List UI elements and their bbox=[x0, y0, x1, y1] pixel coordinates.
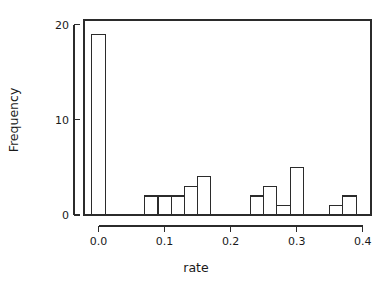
y-tick-label: 10 bbox=[55, 114, 69, 127]
histogram-bar bbox=[92, 34, 105, 215]
y-tick-label: 20 bbox=[55, 19, 69, 32]
histogram-bar bbox=[184, 186, 197, 215]
histogram-bar bbox=[158, 196, 171, 215]
histogram-bar bbox=[343, 196, 356, 215]
y-tick-label: 0 bbox=[62, 209, 69, 222]
histogram-bar bbox=[290, 167, 303, 215]
histogram-figure: 010200.00.10.20.30.4 rate Frequency bbox=[0, 0, 385, 288]
x-tick-label: 0.1 bbox=[156, 235, 174, 248]
x-axis-title: rate bbox=[183, 260, 209, 275]
histogram-bar bbox=[198, 177, 211, 215]
x-tick-label: 0.0 bbox=[90, 235, 108, 248]
histogram-bar bbox=[171, 196, 184, 215]
y-axis-title: Frequency bbox=[6, 87, 21, 152]
axes-group bbox=[74, 20, 371, 232]
bars-group bbox=[92, 34, 356, 215]
histogram-bar bbox=[250, 196, 263, 215]
histogram-bar bbox=[277, 205, 290, 215]
plot-panel-border bbox=[84, 20, 371, 215]
histogram-bar bbox=[330, 205, 343, 215]
x-tick-label: 0.2 bbox=[222, 235, 240, 248]
x-tick-label: 0.4 bbox=[354, 235, 372, 248]
histogram-bar bbox=[264, 186, 277, 215]
histogram-plot: 010200.00.10.20.30.4 rate Frequency bbox=[0, 0, 385, 288]
histogram-bar bbox=[145, 196, 158, 215]
x-tick-label: 0.3 bbox=[288, 235, 306, 248]
